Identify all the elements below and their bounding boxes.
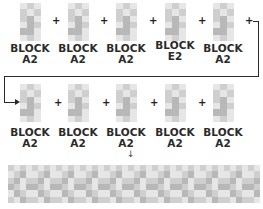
plus-sign: + bbox=[198, 98, 206, 108]
block-label: BLOCKA2 bbox=[153, 127, 197, 149]
block-label: BLOCKA2 bbox=[56, 127, 100, 149]
block-tile-row2-2 bbox=[68, 84, 89, 122]
plus-sign: + bbox=[102, 98, 110, 108]
down-arrow-icon: ↓ bbox=[127, 150, 135, 159]
block-tile-row1-4 bbox=[165, 3, 186, 41]
plus-sign: + bbox=[100, 16, 108, 26]
plus-sign: + bbox=[149, 16, 157, 26]
plus-sign: + bbox=[198, 16, 206, 26]
block-tile-row2-1 bbox=[20, 84, 41, 122]
block-tile-row1-2 bbox=[68, 3, 89, 41]
block-label: BLOCKA2 bbox=[8, 127, 52, 149]
block-tile-row1-1 bbox=[20, 3, 41, 41]
block-tile-row2-3 bbox=[116, 84, 137, 122]
block-label: BLOCKA2 bbox=[201, 127, 245, 149]
plus-sign: + bbox=[54, 98, 62, 108]
block-label: BLOCKA2 bbox=[104, 43, 148, 65]
block-label: BLOCKA2 bbox=[201, 43, 245, 65]
block-label: BLOCKA2 bbox=[104, 127, 148, 149]
connector-line bbox=[4, 76, 259, 77]
plus-sign: + bbox=[150, 98, 158, 108]
block-label: BLOCKA2 bbox=[56, 43, 100, 65]
block-tile-row2-5 bbox=[213, 84, 234, 122]
combined-pattern-strip bbox=[8, 165, 258, 203]
block-tile-row2-4 bbox=[165, 84, 186, 122]
block-label: BLOCKA2 bbox=[8, 43, 52, 65]
block-label: BLOCKE2 bbox=[153, 40, 197, 62]
connector-line bbox=[258, 21, 259, 77]
plus-sign: + bbox=[52, 16, 60, 26]
block-tile-row1-3 bbox=[116, 3, 137, 41]
connector-line bbox=[4, 76, 5, 103]
block-tile-row1-5 bbox=[213, 3, 234, 41]
